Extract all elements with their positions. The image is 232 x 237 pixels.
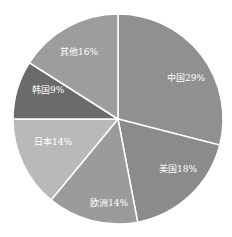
slice-label: 美国18% — [159, 163, 197, 174]
slice-label: 欧洲14% — [90, 197, 128, 208]
slice-label: 其他16% — [60, 46, 98, 57]
slice-label: 日本14% — [34, 136, 72, 147]
pie-chart: 中国29%美国18%欧洲14%日本14%韩国9%其他16% — [0, 0, 232, 237]
slice-label: 中国29% — [167, 72, 205, 83]
slice-label: 韩国9% — [32, 84, 65, 95]
